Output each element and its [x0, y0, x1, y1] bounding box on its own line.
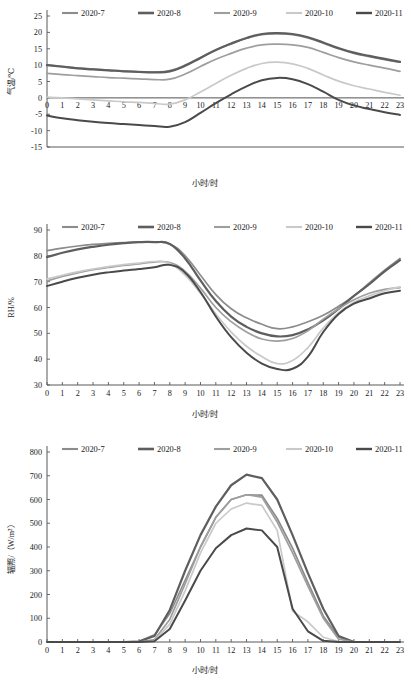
x-tick-label: 5: [122, 646, 126, 655]
legend-label-2020-7: 2020-7: [81, 445, 105, 454]
x-tick-label: 23: [396, 646, 404, 655]
y-tick-label: 200: [30, 591, 42, 600]
series-line-2020-9: [47, 44, 400, 80]
x-tick-label: 10: [196, 646, 204, 655]
x-tick-label: 22: [381, 389, 389, 398]
y-tick-label: 300: [30, 567, 42, 576]
y-tick-label: 700: [30, 472, 42, 481]
x-tick-label: 4: [106, 389, 110, 398]
x-tick-label: 3: [91, 101, 95, 110]
legend-label-2020-7: 2020-7: [81, 223, 105, 232]
x-tick-label: 16: [288, 389, 296, 398]
irradiance-chart-svg: 2020-72020-82020-92020-102020-1101002003…: [0, 430, 411, 683]
x-tick-label: 19: [335, 646, 343, 655]
x-tick-label: 2: [76, 389, 80, 398]
y-tick-label: 30: [34, 381, 42, 390]
x-tick-label: 19: [335, 101, 343, 110]
x-tick-label: 6: [137, 389, 141, 398]
y-tick-label: 70: [34, 278, 42, 287]
series-line-2020-7: [47, 34, 400, 72]
legend-label-2020-11: 2020-11: [375, 9, 403, 18]
x-tick-label: 9: [183, 101, 187, 110]
x-tick-label: 8: [168, 101, 172, 110]
x-tick-label: 15: [273, 389, 281, 398]
y-tick-label: 90: [34, 226, 42, 235]
x-axis-title: 小时/时: [192, 665, 218, 675]
x-tick-label: 16: [288, 646, 296, 655]
y-tick-label: 5: [38, 78, 42, 87]
legend-label-2020-7: 2020-7: [81, 9, 105, 18]
x-tick-label: 11: [212, 646, 220, 655]
x-tick-label: 15: [273, 101, 281, 110]
series-line-2020-10: [47, 261, 400, 364]
y-tick-label: 15: [34, 45, 42, 54]
legend-label-2020-10: 2020-10: [305, 9, 333, 18]
x-tick-label: 13: [242, 101, 250, 110]
x-tick-label: 0: [45, 646, 49, 655]
x-tick-label: 13: [242, 646, 250, 655]
x-tick-label: 15: [273, 646, 281, 655]
y-tick-label: 500: [30, 519, 42, 528]
x-tick-label: 7: [152, 389, 156, 398]
figure-page: 2020-72020-82020-92020-102020-11-15-10-5…: [0, 0, 411, 683]
x-tick-label: 19: [335, 389, 343, 398]
x-tick-label: 18: [319, 646, 327, 655]
x-axis-title: 小时/时: [192, 409, 218, 419]
x-tick-label: 17: [304, 389, 312, 398]
x-tick-label: 18: [319, 101, 327, 110]
x-tick-label: 1: [60, 646, 64, 655]
legend-label-2020-8: 2020-8: [157, 223, 181, 232]
x-tick-label: 1: [60, 389, 64, 398]
x-tick-label: 4: [106, 101, 110, 110]
temperature-chart-svg: 2020-72020-82020-92020-102020-11-15-10-5…: [0, 0, 411, 212]
legend-label-2020-11: 2020-11: [375, 223, 403, 232]
x-tick-label: 14: [258, 646, 266, 655]
x-tick-label: 8: [168, 389, 172, 398]
x-tick-label: 3: [91, 646, 95, 655]
legend-label-2020-9: 2020-9: [233, 223, 257, 232]
x-tick-label: 14: [258, 389, 266, 398]
x-tick-label: 10: [196, 389, 204, 398]
x-tick-label: 10: [196, 101, 204, 110]
legend-label-2020-8: 2020-8: [157, 445, 181, 454]
series-line-2020-8: [47, 33, 400, 72]
x-tick-label: 16: [288, 101, 296, 110]
x-tick-label: 17: [304, 646, 312, 655]
legend-label-2020-8: 2020-8: [157, 9, 181, 18]
y-tick-label: 0: [38, 638, 42, 647]
x-tick-label: 3: [91, 389, 95, 398]
chart-panel-irradiance: 2020-72020-82020-92020-102020-1101002003…: [0, 430, 411, 683]
y-tick-label: 800: [30, 448, 42, 457]
x-tick-label: 9: [183, 646, 187, 655]
x-tick-label: 23: [396, 389, 404, 398]
x-tick-label: 1: [60, 101, 64, 110]
series-line-2020-11: [47, 265, 400, 371]
x-tick-label: 21: [365, 646, 373, 655]
series-line-2020-11: [47, 528, 400, 642]
x-tick-label: 2: [76, 101, 80, 110]
y-tick-label: 80: [34, 252, 42, 261]
y-tick-label: 400: [30, 543, 42, 552]
y-tick-label: 40: [34, 355, 42, 364]
x-tick-label: 9: [183, 389, 187, 398]
y-axis-title: 气温/℃: [6, 68, 16, 95]
y-tick-label: -5: [35, 110, 42, 119]
series-line-2020-10: [47, 503, 400, 642]
x-tick-label: 4: [106, 646, 110, 655]
legend-label-2020-10: 2020-10: [305, 223, 333, 232]
x-tick-label: 17: [304, 101, 312, 110]
x-tick-label: 7: [152, 646, 156, 655]
x-tick-label: 18: [319, 389, 327, 398]
x-tick-label: 6: [137, 646, 141, 655]
x-tick-label: 13: [242, 389, 250, 398]
series-line-2020-8: [47, 475, 400, 642]
y-tick-label: 20: [34, 28, 42, 37]
x-tick-label: 11: [212, 389, 220, 398]
y-tick-label: 600: [30, 496, 42, 505]
chart-panel-humidity: 2020-72020-82020-92020-102020-1130405060…: [0, 212, 411, 430]
series-line-2020-11: [47, 78, 400, 127]
legend-label-2020-10: 2020-10: [305, 445, 333, 454]
y-tick-label: 25: [34, 12, 42, 21]
legend-label-2020-9: 2020-9: [233, 445, 257, 454]
legend-label-2020-9: 2020-9: [233, 9, 257, 18]
